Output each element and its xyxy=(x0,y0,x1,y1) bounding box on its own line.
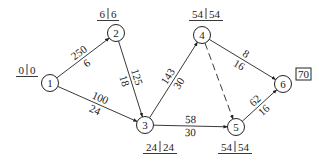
node-1: 100 xyxy=(16,64,59,92)
node-number: 4 xyxy=(199,29,205,41)
nodes: 1002663242445454554546 xyxy=(16,8,292,154)
node-5: 55454 xyxy=(218,119,252,154)
edge-cost: 58 xyxy=(185,113,197,125)
node-times: 5454 xyxy=(189,8,223,21)
earliest-time: 24 xyxy=(146,141,158,153)
node-6: 6 xyxy=(275,76,292,93)
node-times: 00 xyxy=(16,64,38,77)
edge-duration: 6 xyxy=(81,56,93,69)
edge-duration: 30 xyxy=(185,126,197,138)
network-diagram: 250610024125181433058308166216 100266324… xyxy=(0,0,319,165)
earliest-time: 6 xyxy=(100,8,106,20)
edge-5-6: 6216 xyxy=(242,90,276,122)
edge-4-5 xyxy=(205,43,233,119)
node-number: 1 xyxy=(47,77,53,89)
node-number: 6 xyxy=(280,78,286,90)
latest-time: 24 xyxy=(163,141,175,153)
edge-2-3: 12518 xyxy=(117,41,145,117)
node-times: 5454 xyxy=(218,141,252,154)
edge-1-2: 2506 xyxy=(57,38,109,78)
latest-time: 54 xyxy=(238,141,250,153)
edge-3-5: 5830 xyxy=(153,113,227,138)
node-3: 32424 xyxy=(137,117,178,154)
edge-3-4: 14330 xyxy=(150,42,198,118)
total-duration-box: 70 xyxy=(296,68,311,80)
earliest-time: 54 xyxy=(192,8,204,20)
node-times: 66 xyxy=(97,8,119,21)
latest-time: 54 xyxy=(209,8,221,20)
node-number: 3 xyxy=(142,119,148,131)
latest-time: 0 xyxy=(30,64,36,76)
node-number: 5 xyxy=(233,121,239,133)
total-duration: 70 xyxy=(298,68,310,80)
node-number: 2 xyxy=(113,27,119,39)
edge-duration: 18 xyxy=(117,74,132,89)
earliest-time: 54 xyxy=(221,141,233,153)
latest-time: 6 xyxy=(111,8,117,20)
node-4: 45454 xyxy=(189,8,223,44)
earliest-time: 0 xyxy=(19,64,25,76)
node-times: 2424 xyxy=(143,141,177,154)
node-2: 266 xyxy=(97,8,125,42)
edge-1-3: 10024 xyxy=(58,86,137,121)
edge-4-6: 816 xyxy=(209,39,275,79)
